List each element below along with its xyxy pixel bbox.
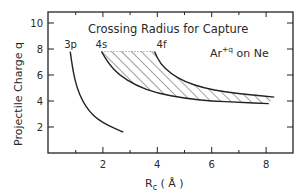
y-tick-label: 4 bbox=[37, 96, 43, 107]
y-tick-label: 8 bbox=[37, 44, 43, 55]
chart-title: Crossing Radius for Capture bbox=[88, 22, 248, 36]
y-axis-label: Projectile Charge q bbox=[12, 42, 25, 146]
x-tick-label: 4 bbox=[154, 159, 160, 170]
curve-label-3p: 3p bbox=[64, 39, 77, 50]
y-tick-label: 6 bbox=[37, 70, 43, 81]
chart: 2468246810 3p4s4f Crossing Radius for Ca… bbox=[0, 0, 308, 193]
curve-label-4f: 4f bbox=[157, 39, 167, 50]
x-axis-label: Rc ( Å ) bbox=[145, 177, 184, 192]
x-tick-label: 6 bbox=[209, 159, 215, 170]
curve-label-4s: 4s bbox=[96, 39, 108, 50]
x-tick-label: 2 bbox=[100, 159, 106, 170]
y-tick-label: 2 bbox=[37, 122, 43, 133]
x-tick-label: 8 bbox=[263, 159, 269, 170]
annotation: Ar+q on Ne bbox=[210, 45, 269, 60]
y-tick-label: 10 bbox=[30, 18, 43, 29]
